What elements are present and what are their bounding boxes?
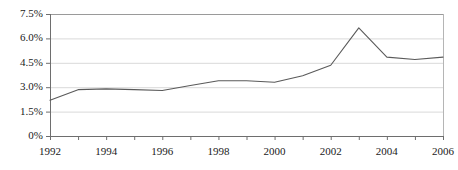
y-axis-tick-label: 4.5% — [20, 56, 43, 68]
gridlines — [50, 39, 443, 112]
x-axis-tick-label: 2004 — [367, 145, 407, 157]
y-axis-tick-label: 1.5% — [20, 105, 43, 117]
x-axis-tick-label: 1994 — [86, 145, 126, 157]
plot-frame — [50, 14, 444, 137]
y-axis-tick-label: 7.5% — [20, 7, 43, 19]
x-axis-tick-label: 1998 — [198, 145, 238, 157]
x-axis-tick-label: 2000 — [255, 145, 295, 157]
line-chart: 7.5%6.0%4.5%3.0%1.5%0% 19921994199619982… — [0, 0, 458, 170]
y-axis-tick-label: 6.0% — [20, 31, 43, 43]
x-axis-tick-label: 1992 — [30, 145, 70, 157]
y-axis-tick-label: 3.0% — [20, 80, 43, 92]
y-axis-tick-label: 0% — [28, 129, 43, 141]
x-axis-tick-label: 2002 — [311, 145, 351, 157]
x-axis-tick-label: 1996 — [142, 145, 182, 157]
x-axis-tick-label: 2006 — [423, 145, 458, 157]
y-axis-ticks — [46, 15, 50, 137]
